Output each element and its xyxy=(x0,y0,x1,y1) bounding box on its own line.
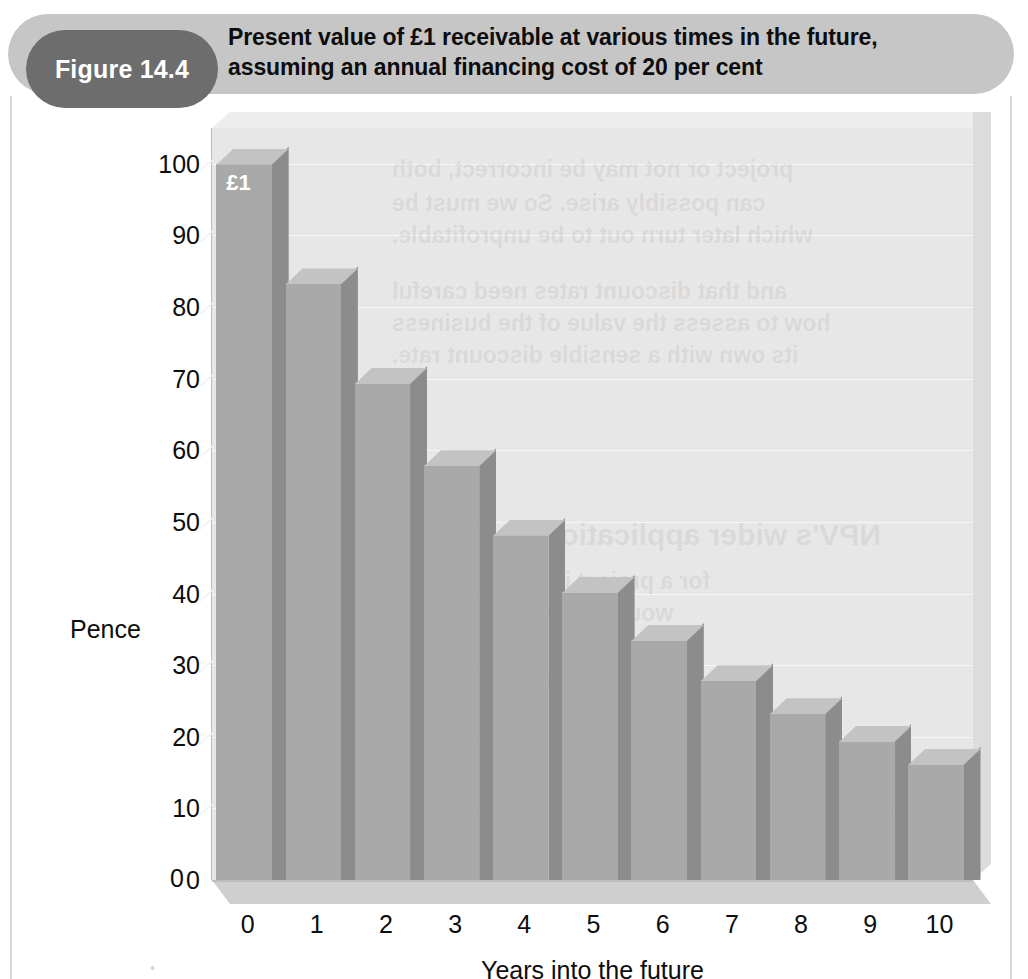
plot-floor xyxy=(212,880,991,904)
y-axis-tick-label: 10 xyxy=(92,794,200,823)
bar xyxy=(908,764,963,880)
bar-front-face xyxy=(908,764,963,880)
x-axis-tick-label: 8 xyxy=(794,910,808,939)
y-axis-title: Pence xyxy=(70,615,141,644)
y-axis-tick-label: 50 xyxy=(92,507,200,536)
bar-value-annotation: £1 xyxy=(226,170,250,196)
y-axis-tick-labels: 0102030405060708090100 xyxy=(80,128,200,880)
bar xyxy=(493,535,548,880)
x-axis-tick-label: 7 xyxy=(725,910,739,939)
x-axis-tick-label: 3 xyxy=(448,910,462,939)
page-frame-left-rule xyxy=(10,96,12,979)
axis-origin-label: 0 xyxy=(170,864,184,893)
figure-title: Present value of £1 receivable at variou… xyxy=(228,22,988,82)
y-axis-tick-label: 60 xyxy=(92,436,200,465)
y-axis-tick-label: 80 xyxy=(92,293,200,322)
plot-floor-front-edge xyxy=(212,880,973,882)
bar-front-face xyxy=(424,465,479,880)
y-axis-tick-label: 90 xyxy=(92,221,200,250)
x-axis-tick-label: 2 xyxy=(379,910,393,939)
x-axis-tick-label: 5 xyxy=(587,910,601,939)
bar-front-face xyxy=(562,592,617,880)
x-axis-tick-label: 10 xyxy=(926,910,954,939)
plot-wall-top-face xyxy=(212,112,973,128)
bar-chart: project or not may be incorrect, bothcan… xyxy=(18,104,1002,964)
bar-front-face xyxy=(701,680,756,880)
bar-front-face xyxy=(355,383,410,880)
bar xyxy=(562,592,617,880)
bar xyxy=(770,713,825,880)
bar: £1 xyxy=(216,164,271,880)
figure-title-line-1: Present value of £1 receivable at variou… xyxy=(228,22,988,52)
x-axis-tick-labels: 012345678910 xyxy=(212,910,1012,944)
page-frame-right-rule xyxy=(1010,96,1012,979)
bar-front-face: £1 xyxy=(216,164,271,880)
x-axis-tick-label: 6 xyxy=(656,910,670,939)
y-axis-tick-label: 40 xyxy=(92,579,200,608)
x-axis-tick-label: 0 xyxy=(241,910,255,939)
bar-side-face xyxy=(964,747,981,880)
figure-title-line-2: assuming an annual financing cost of 20 … xyxy=(228,52,988,82)
figure-number-label: Figure 14.4 xyxy=(55,55,189,84)
y-axis-tick-label: 30 xyxy=(92,651,200,680)
bar-front-face xyxy=(839,741,894,880)
bar-series: £1 xyxy=(212,128,973,880)
bar xyxy=(286,283,341,880)
bar xyxy=(424,465,479,880)
bar xyxy=(701,680,756,880)
bar-front-face xyxy=(493,535,548,880)
bar xyxy=(839,741,894,880)
bar-front-face xyxy=(770,713,825,880)
bar-front-face xyxy=(286,283,341,880)
x-axis-tick-label: 1 xyxy=(310,910,324,939)
y-axis-tick-label: 70 xyxy=(92,364,200,393)
x-axis-tick-label: 9 xyxy=(863,910,877,939)
bar-front-face xyxy=(631,640,686,880)
y-axis-tick-label: 100 xyxy=(92,149,200,178)
figure-number-badge: Figure 14.4 xyxy=(26,30,218,108)
bar xyxy=(355,383,410,880)
y-axis-tick-label: 20 xyxy=(92,722,200,751)
page-bleed-text: • xyxy=(150,960,1020,976)
bar xyxy=(631,640,686,880)
x-axis-tick-label: 4 xyxy=(517,910,531,939)
